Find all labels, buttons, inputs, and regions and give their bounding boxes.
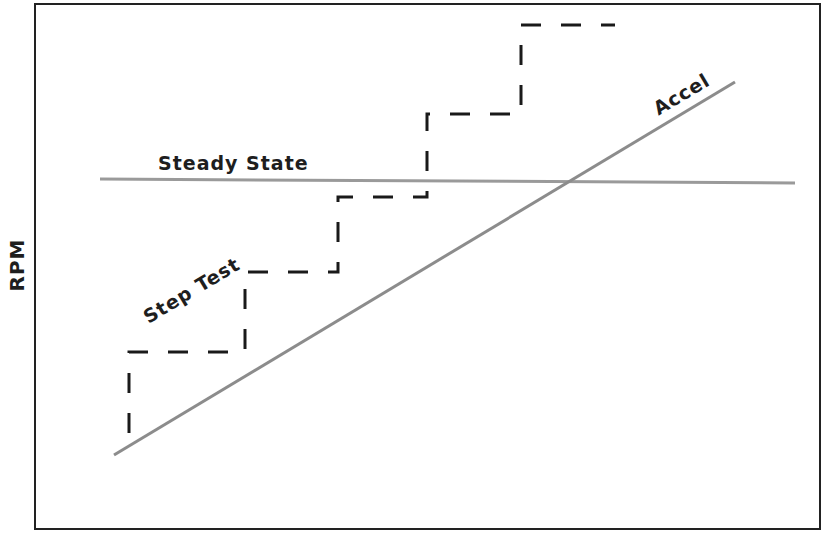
accel-label: Accel — [649, 69, 713, 120]
step-test-line — [129, 25, 615, 433]
step-test-label: Step Test — [139, 253, 243, 328]
y-axis-label: RPM — [5, 239, 29, 292]
steady-state-label: Steady State — [158, 152, 309, 174]
steady-state-line — [100, 179, 795, 183]
rpm-test-diagram: RPM Steady State Accel Step Test — [0, 0, 827, 539]
